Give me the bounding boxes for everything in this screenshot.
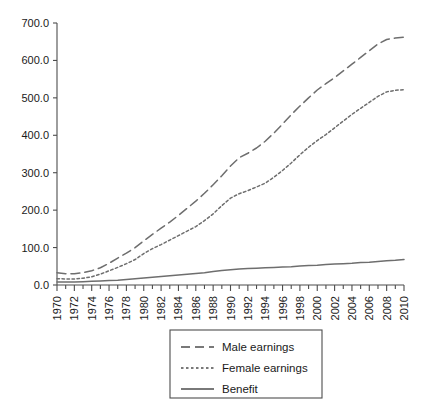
x-axis-tick-label: 1976 xyxy=(103,296,115,320)
y-axis-tick-labels: 0.0100.0200.0300.0400.0500.0600.0700.0 xyxy=(21,17,49,291)
line-chart: 0.0100.0200.0300.0400.0500.0600.0700.0 1… xyxy=(0,0,430,410)
x-axis-tick-label: 2004 xyxy=(346,296,358,320)
x-axis-tick-label: 2010 xyxy=(398,296,410,320)
legend-label-benefit: Benefit xyxy=(222,383,259,395)
x-axis-tick-label: 1972 xyxy=(68,296,80,320)
x-axis-tick-label: 2000 xyxy=(311,296,323,320)
x-axis-tick-label: 1990 xyxy=(225,296,237,320)
x-axis-tick-label: 2006 xyxy=(363,296,375,320)
y-axis-tick-label: 400.0 xyxy=(21,129,49,141)
y-axis-tick-label: 500.0 xyxy=(21,92,49,104)
y-axis-tick-label: 700.0 xyxy=(21,17,49,29)
chart-legend: Male earningsFemale earningsBenefit xyxy=(170,330,322,398)
x-axis-tick-label: 1974 xyxy=(86,296,98,320)
x-axis-tick-label: 1996 xyxy=(277,296,289,320)
x-axis-tick-label: 1994 xyxy=(259,296,271,320)
x-axis-tick-label: 1984 xyxy=(172,296,184,320)
y-axis-tick-label: 600.0 xyxy=(21,54,49,66)
x-axis-tick-label: 1986 xyxy=(190,296,202,320)
x-axis-tick-label: 1982 xyxy=(155,296,167,320)
y-axis-tick-label: 0.0 xyxy=(34,279,49,291)
axis-lines xyxy=(57,23,404,285)
x-axis-tick-label: 2008 xyxy=(381,296,393,320)
legend-label-male-earnings: Male earnings xyxy=(222,341,294,353)
x-axis-tick-label: 1998 xyxy=(294,296,306,320)
series-line-male-earnings xyxy=(57,37,404,274)
chart-canvas: 0.0100.0200.0300.0400.0500.0600.0700.0 1… xyxy=(0,0,430,410)
legend-label-female-earnings: Female earnings xyxy=(222,362,308,374)
x-axis-tick-label: 1978 xyxy=(120,296,132,320)
y-axis-tick-label: 200.0 xyxy=(21,204,49,216)
data-series-group xyxy=(57,37,404,282)
x-axis-ticks xyxy=(57,285,404,291)
x-axis-tick-label: 2002 xyxy=(329,296,341,320)
x-axis-tick-labels: 1970197219741976197819801982198419861988… xyxy=(51,296,410,320)
y-axis-ticks xyxy=(53,23,57,285)
series-line-female-earnings xyxy=(57,90,404,279)
y-axis-tick-label: 300.0 xyxy=(21,167,49,179)
x-axis-tick-label: 1970 xyxy=(51,296,63,320)
x-axis-tick-label: 1980 xyxy=(138,296,150,320)
x-axis-tick-label: 1992 xyxy=(242,296,254,320)
x-axis-tick-label: 1988 xyxy=(207,296,219,320)
y-axis-tick-label: 100.0 xyxy=(21,242,49,254)
